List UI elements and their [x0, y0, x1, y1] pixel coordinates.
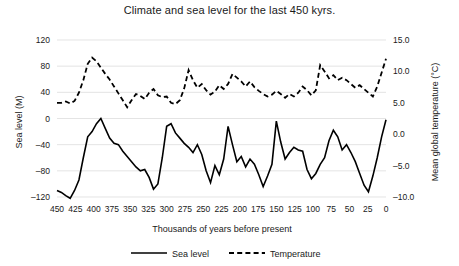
gridlines — [57, 40, 386, 197]
x-tick-label: 350 — [123, 204, 137, 214]
y2-axis-tick-labels: 15.010.05.00.0–5.0–10.0 — [393, 35, 415, 202]
y-tick-label: 0 — [45, 114, 50, 124]
series-line-sea-level — [57, 119, 386, 199]
y-tick-label: 120 — [36, 35, 50, 45]
y-tick-label: 40 — [41, 87, 51, 97]
x-tick-label: 450 — [50, 204, 64, 214]
chart-figure: Climate and sea level for the last 450 k… — [0, 0, 459, 266]
x-tick-label: 225 — [214, 204, 228, 214]
y2-axis-title: Mean global temperature (°C) — [430, 63, 440, 182]
y2-tick-label: 10.0 — [393, 66, 410, 76]
x-tick-label: 400 — [86, 204, 100, 214]
y-axis-tick-labels: 12080400–40–80–120 — [31, 35, 50, 202]
chart-plot-area: 12080400–40–80–120 15.010.05.00.0–5.0–10… — [0, 0, 459, 266]
x-tick-label: 150 — [269, 204, 283, 214]
x-tick-label: 325 — [141, 204, 155, 214]
data-series — [57, 58, 386, 199]
x-tick-label: 250 — [196, 204, 210, 214]
y-tick-label: –120 — [31, 192, 50, 202]
x-tick-label: 175 — [251, 204, 265, 214]
series-line-temperature — [57, 58, 386, 108]
x-tick-label: 275 — [178, 204, 192, 214]
x-tick-label: 75 — [326, 204, 336, 214]
chart-legend: Sea level Temperature — [131, 249, 321, 259]
legend-label-sea-level: Sea level — [172, 249, 209, 259]
x-tick-label: 300 — [160, 204, 174, 214]
x-axis-title: Thousands of years before present — [152, 224, 292, 234]
x-tick-label: 50 — [345, 204, 355, 214]
x-tick-label: 100 — [306, 204, 320, 214]
y2-tick-label: –5.0 — [393, 161, 410, 171]
y-tick-label: –40 — [36, 140, 50, 150]
x-axis-tick-labels: 4504254003753503253002752502252001751501… — [50, 204, 389, 214]
y-axis-title: Sea level (M) — [14, 95, 24, 148]
x-tick-label: 125 — [288, 204, 302, 214]
y2-tick-label: 5.0 — [393, 98, 405, 108]
x-tick-label: 200 — [233, 204, 247, 214]
legend-label-temperature: Temperature — [270, 249, 321, 259]
x-tick-label: 0 — [384, 204, 389, 214]
x-tick-label: 425 — [68, 204, 82, 214]
y-tick-label: 80 — [41, 61, 51, 71]
y2-tick-label: 0.0 — [393, 129, 405, 139]
y-tick-label: –80 — [36, 166, 50, 176]
x-tick-label: 25 — [363, 204, 373, 214]
x-tick-label: 375 — [105, 204, 119, 214]
y2-tick-label: 15.0 — [393, 35, 410, 45]
y2-tick-label: –10.0 — [393, 192, 415, 202]
